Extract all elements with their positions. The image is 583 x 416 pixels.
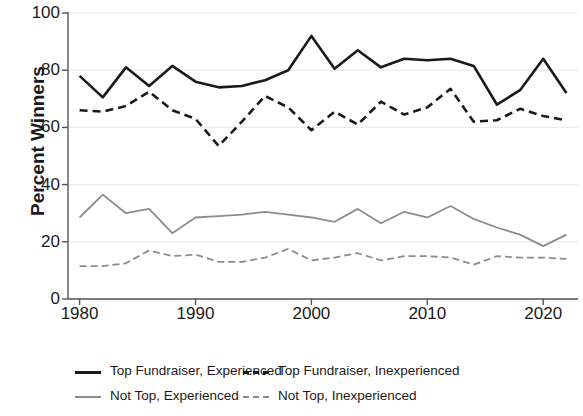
legend-label: Not Top, Experienced <box>110 388 239 403</box>
legend-swatch-solid-dark-icon <box>75 365 101 377</box>
series-line <box>80 249 567 266</box>
legend-item-not-top-experienced: Not Top, Experienced <box>0 388 231 403</box>
legend-row-1: Top Fundraiser, Experienced Top Fundrais… <box>0 358 583 383</box>
legend-swatch-dashed-dark-icon <box>243 365 269 377</box>
legend-item-top-fundraiser-inexperienced: Top Fundraiser, Inexperienced <box>231 363 460 378</box>
legend-item-not-top-inexperienced: Not Top, Inexperienced <box>231 388 417 403</box>
legend-swatch-solid-gray-icon <box>75 390 101 402</box>
legend-label: Top Fundraiser, Inexperienced <box>278 363 460 378</box>
legend-label: Not Top, Inexperienced <box>278 388 417 403</box>
line-chart: Percent Winners 020406080100 19801990200… <box>0 0 583 416</box>
series-line <box>80 195 567 246</box>
legend-swatch-dashed-gray-icon <box>243 390 269 402</box>
legend-row-2: Not Top, Experienced Not Top, Inexperien… <box>0 383 583 408</box>
plot-area <box>0 0 583 416</box>
legend-item-top-fundraiser-experienced: Top Fundraiser, Experienced <box>0 363 231 378</box>
chart-legend: Top Fundraiser, Experienced Top Fundrais… <box>0 358 583 408</box>
